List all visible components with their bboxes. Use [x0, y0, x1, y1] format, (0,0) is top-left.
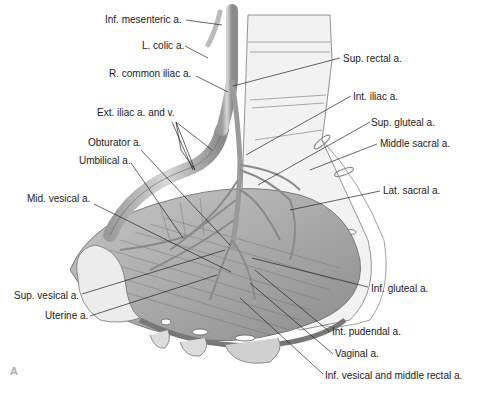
label-umbilical-artery: Umbilical a.: [79, 155, 131, 167]
aorta: [222, 10, 232, 130]
label-obturator-artery: Obturator a.: [88, 137, 141, 149]
inf-mesenteric-vessel: [208, 12, 220, 45]
panel-letter: A: [10, 365, 18, 377]
label-l-colic-artery: L. colic a.: [142, 40, 184, 52]
label-int-iliac-artery: Int. iliac a.: [353, 91, 398, 103]
label-int-pudendal-artery: Int. pudendal a.: [332, 326, 401, 338]
label-sup-rectal-artery: Sup. rectal a.: [343, 53, 402, 65]
label-sup-vesical-artery: Sup. vesical a.: [14, 290, 79, 302]
label-inf-gluteal-artery: Inf. gluteal a.: [371, 283, 428, 295]
label-inf-mesenteric-artery: Inf. mesenteric a.: [105, 14, 182, 26]
label-uterine-artery: Uterine a.: [45, 310, 88, 322]
label-lat-sacral-artery: Lat. sacral a.: [383, 185, 440, 197]
label-mid-vesical-artery: Mid. vesical a.: [27, 193, 90, 205]
label-ext-iliac-artery-vein: Ext. iliac a. and v.: [97, 107, 175, 119]
label-inf-vesical-middle-rectal-artery: Inf. vesical and middle rectal a.: [325, 370, 462, 382]
label-sup-gluteal-artery: Sup. gluteal a.: [371, 117, 435, 129]
label-vaginal-artery: Vaginal a.: [335, 348, 379, 360]
label-r-common-iliac-artery: R. common iliac a.: [109, 68, 191, 80]
label-middle-sacral-artery: Middle sacral a.: [380, 138, 450, 150]
